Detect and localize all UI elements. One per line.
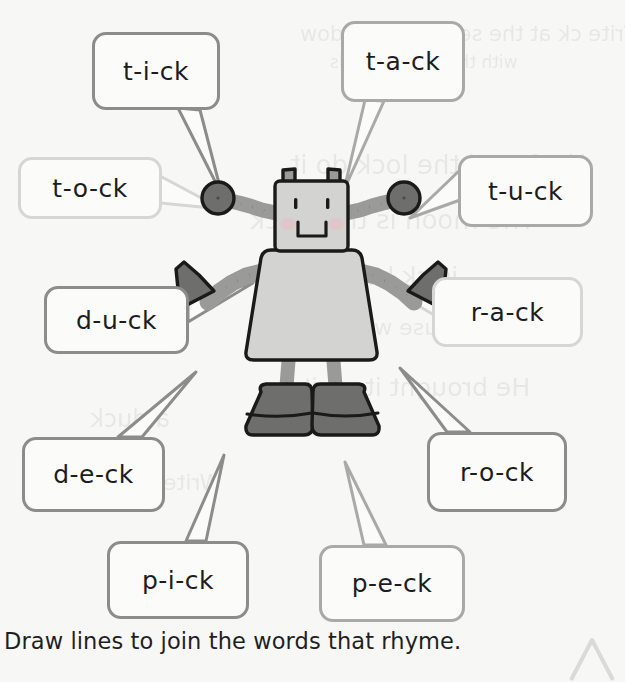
tail-d-e-ck: [118, 372, 196, 437]
robot-head: [275, 181, 348, 251]
robot-eye-right: [326, 198, 329, 209]
robot-boot-right: [312, 384, 379, 435]
bubble-label: t-u-ck: [488, 177, 563, 206]
bubble-label: p-e-ck: [352, 569, 433, 598]
bubble-label: d-e-ck: [53, 460, 134, 489]
bubble-t-i-ck[interactable]: t-i-ck: [92, 32, 220, 110]
bubble-t-o-ck[interactable]: t-o-ck: [18, 157, 162, 219]
tail-t-a-ck: [344, 100, 384, 190]
robot-illustration: [176, 169, 446, 435]
chevron-up-icon: [571, 640, 613, 680]
bubble-r-o-ck[interactable]: r-o-ck: [427, 432, 567, 512]
bubble-label: r-a-ck: [471, 298, 544, 327]
bubble-t-a-ck[interactable]: t-a-ck: [341, 21, 465, 102]
robot-body: [246, 250, 377, 360]
bubble-r-a-ck[interactable]: r-a-ck: [432, 277, 583, 347]
bubble-p-e-ck[interactable]: p-e-ck: [319, 545, 465, 622]
bubble-p-i-ck[interactable]: p-i-ck: [107, 541, 249, 619]
bubble-label: r-o-ck: [460, 458, 534, 487]
robot-cheek-right: [329, 218, 344, 230]
bubble-d-u-ck[interactable]: d-u-ck: [44, 286, 189, 354]
bubble-d-e-ck[interactable]: d-e-ck: [22, 437, 165, 512]
bubble-label: t-a-ck: [366, 47, 440, 76]
tail-r-o-ck: [400, 368, 470, 432]
instruction-text: Draw lines to join the words that rhyme.: [4, 628, 461, 654]
robot-arm-upper-right: [346, 182, 420, 214]
robot-eye-left: [294, 198, 297, 209]
bubble-t-u-ck[interactable]: t-u-ck: [458, 155, 593, 227]
worksheet-page: Write ck at the sentence windowwith the …: [0, 0, 625, 682]
tail-p-i-ck: [186, 455, 224, 541]
bubble-label: p-i-ck: [142, 566, 214, 595]
robot-cheek-left: [281, 218, 296, 230]
bubble-label: d-u-ck: [76, 306, 157, 335]
robot-boot-left: [246, 384, 313, 435]
bubble-label: t-o-ck: [52, 174, 127, 203]
tail-p-e-ck: [345, 462, 386, 545]
robot-arm-upper-left: [202, 182, 276, 214]
bubble-label: t-i-ck: [123, 57, 189, 86]
robot-boots: [246, 384, 379, 435]
